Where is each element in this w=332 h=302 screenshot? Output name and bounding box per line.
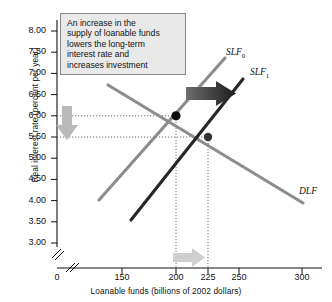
y-tick-label: 7.00 (12, 67, 46, 77)
curve-label-slf0-sub: 0 (242, 52, 245, 59)
annotation-note: An increase in the supply of loanable fu… (60, 13, 186, 75)
y-tick-label: 5.00 (12, 152, 46, 162)
x-tick-label-origin: 0 (40, 272, 74, 282)
annotation-line: supply of loanable funds (67, 28, 180, 38)
y-tick-label: 8.00 (12, 25, 46, 35)
curve-label-slf1-text: SLF (250, 67, 266, 77)
curve-label-slf1: SLF1 (250, 67, 269, 79)
equilibrium-guide-lines (57, 116, 208, 268)
x-tick-label: 150 (105, 272, 139, 282)
y-tick-label: 3.50 (12, 216, 46, 226)
curve-label-dlf: DLF (299, 186, 317, 196)
y-tick-label: 5.50 (12, 131, 46, 141)
curve-label-slf1-sub: 1 (266, 72, 269, 79)
y-tick-label: 7.50 (12, 46, 46, 56)
curve-label-slf0: SLF0 (226, 47, 245, 59)
annotation-line: An increase in the (67, 18, 180, 28)
initial-equilibrium-point (171, 111, 180, 120)
annotation-line: lowers the long-term (67, 39, 180, 49)
x-axis-title: Loanable funds (billions of 2002 dollars… (0, 286, 332, 296)
y-axis-title: Real interest rate (percent per year) (30, 20, 40, 210)
curve-dlf (108, 85, 303, 203)
interest-rate-decrease-arrow (56, 106, 78, 140)
y-tick-label: 3.00 (12, 237, 46, 247)
y-tick-label: 6.00 (12, 110, 46, 120)
annotation-line: increases investment (67, 60, 180, 70)
supply-shift-arrow (186, 81, 236, 106)
x-tick-label: 225 (191, 272, 225, 282)
x-tick-label: 250 (222, 272, 256, 282)
y-tick-label: 4.00 (12, 195, 46, 205)
x-tick-label: 200 (159, 272, 193, 282)
curve-label-slf0-text: SLF (226, 47, 242, 57)
y-tick-label: 6.50 (12, 89, 46, 99)
new-equilibrium-point (204, 133, 212, 141)
y-tick-label: 4.50 (12, 173, 46, 183)
y-axis-ticks (51, 31, 57, 243)
quantity-increase-arrow (173, 248, 205, 267)
x-tick-label: 300 (285, 272, 319, 282)
annotation-line: interest rate and (67, 49, 180, 59)
loanable-funds-chart: 8.00 7.50 7.00 6.50 6.00 5.50 5.00 4.50 … (0, 0, 332, 302)
